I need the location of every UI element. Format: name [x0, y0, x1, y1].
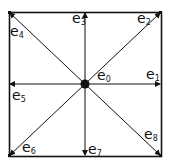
label-e1: e1 [146, 67, 160, 83]
center-node [81, 80, 90, 89]
label-e7: e7 [88, 142, 102, 158]
label-e0: e0 [97, 68, 111, 84]
label-e4: e4 [10, 24, 24, 40]
label-e6: e6 [22, 140, 36, 156]
label-e3: e3 [72, 11, 86, 27]
d2q9-diagram: e0 e1 e2 e3 e4 e5 e6 e7 e8 [0, 0, 170, 166]
label-e2: e2 [137, 11, 151, 27]
label-e5: e5 [12, 88, 26, 104]
label-e8: e8 [144, 127, 158, 143]
